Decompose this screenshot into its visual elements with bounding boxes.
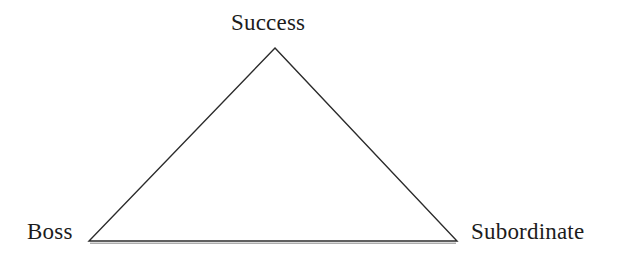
vertex-label-boss: Boss	[27, 220, 73, 243]
vertex-label-success: Success	[231, 11, 305, 34]
triangle-diagram: Success Boss Subordinate	[0, 0, 626, 264]
vertex-label-subordinate: Subordinate	[471, 220, 584, 243]
triangle-outline	[89, 48, 457, 241]
